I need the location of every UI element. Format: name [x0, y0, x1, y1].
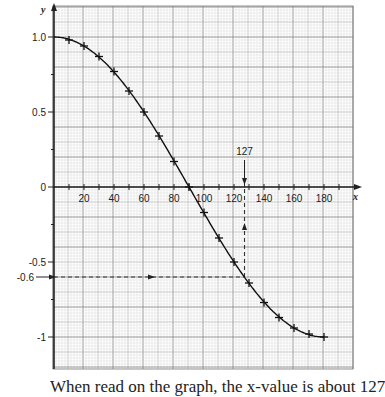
y-tick-label: 0 [40, 182, 46, 193]
x-tick-label: 80 [168, 193, 180, 204]
x-tick-label: 180 [316, 193, 333, 204]
x-axis-arrow-icon [354, 184, 362, 190]
caption-text: When read on the graph, the x-value is a… [50, 377, 385, 397]
x-tick-label: 160 [286, 193, 303, 204]
arrow-right-icon [49, 275, 56, 280]
x-tick-label: 40 [108, 193, 120, 204]
y-ticks: 1.00.50-0.5-1 [29, 32, 54, 343]
y-tick-label: -1 [37, 332, 46, 343]
x-tick-label: 20 [78, 193, 90, 204]
x-tick-label: 140 [256, 193, 273, 204]
annotation-label: -0.6 [17, 272, 35, 283]
x-tick-label: 120 [226, 193, 243, 204]
arrow-right-icon [148, 275, 155, 280]
data-point-marker [170, 158, 178, 166]
y-tick-label: 1.0 [32, 32, 46, 43]
arrow-up-icon [242, 223, 247, 230]
x-axis-label: x [352, 191, 358, 202]
y-axis-label: y [40, 4, 46, 15]
x-tick-label: 60 [138, 193, 150, 204]
y-tick-label: -0.5 [29, 257, 47, 268]
data-point-marker [200, 209, 208, 217]
y-tick-label: 0.5 [32, 107, 46, 118]
annotation-label: 127 [236, 146, 253, 157]
